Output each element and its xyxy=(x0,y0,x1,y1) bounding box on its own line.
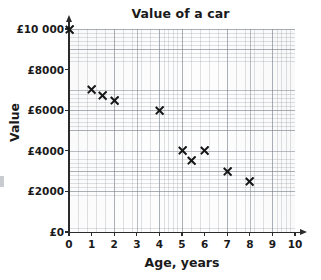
data-point xyxy=(245,177,254,186)
x-axis-line xyxy=(68,232,302,234)
data-point xyxy=(87,85,96,94)
x-tick-4 xyxy=(159,232,160,236)
x-tick-6 xyxy=(204,232,205,236)
scatter-chart: Value of a car 012345678910 £0£2000£4000… xyxy=(0,0,321,280)
y-tick-8000 xyxy=(65,69,69,70)
x-tick-7 xyxy=(227,232,228,236)
x-tick-0 xyxy=(68,232,69,236)
y-tick-0 xyxy=(65,231,69,232)
data-point xyxy=(155,106,164,115)
x-tick-9 xyxy=(272,232,273,236)
y-axis-line xyxy=(68,22,70,233)
x-tick-8 xyxy=(249,232,250,236)
x-axis-title: Age, years xyxy=(69,255,295,270)
data-point xyxy=(223,167,232,176)
data-point xyxy=(178,146,187,155)
y-tick-label-2000: £2000 xyxy=(27,185,64,197)
data-point xyxy=(110,96,119,105)
graph-paper-texture xyxy=(69,29,295,232)
x-tick-5 xyxy=(181,232,182,236)
y-tick-label-0: £0 xyxy=(49,226,64,238)
page-margin-mark xyxy=(0,176,4,187)
y-tick-label-8000: £8000 xyxy=(27,64,64,76)
data-point xyxy=(98,91,107,100)
y-tick-6000 xyxy=(65,110,69,111)
data-point xyxy=(65,25,74,34)
y-tick-label-10000: £10 000 xyxy=(17,23,65,35)
x-tick-label-10: 10 xyxy=(282,238,308,250)
data-point xyxy=(200,146,209,155)
y-tick-label-6000: £6000 xyxy=(27,104,64,116)
y-tick-label-4000: £4000 xyxy=(27,145,64,157)
plot-area xyxy=(69,29,295,232)
y-tick-2000 xyxy=(65,191,69,192)
y-axis-title: Value xyxy=(7,88,22,158)
y-tick-4000 xyxy=(65,150,69,151)
chart-title: Value of a car xyxy=(0,6,321,21)
y-axis-arrow-icon xyxy=(66,15,72,22)
x-axis-arrow-icon xyxy=(300,229,307,235)
x-tick-1 xyxy=(91,232,92,236)
x-tick-10 xyxy=(294,232,295,236)
data-point xyxy=(187,156,196,165)
x-tick-2 xyxy=(114,232,115,236)
x-tick-3 xyxy=(136,232,137,236)
